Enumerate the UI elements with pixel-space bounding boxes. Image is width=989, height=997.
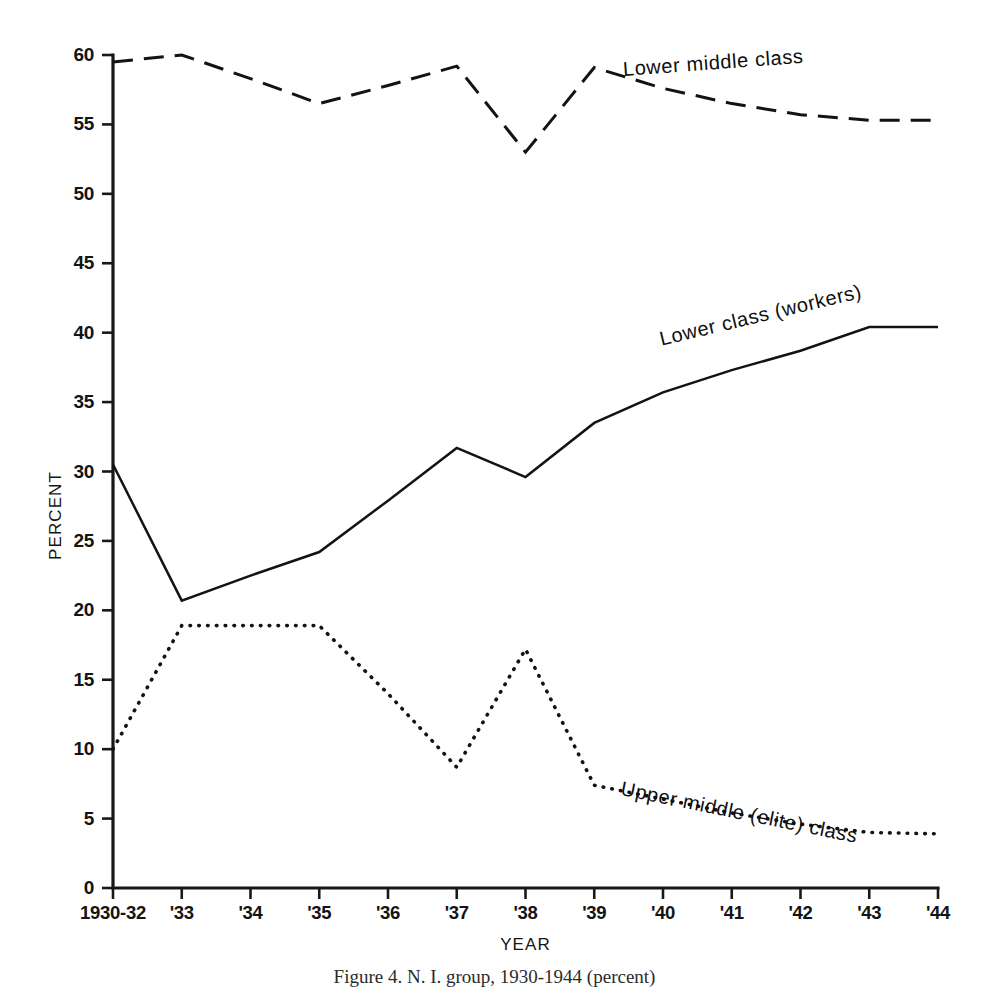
series-line-lower-middle-class — [113, 55, 938, 152]
x-tick-label: '42 — [788, 902, 812, 924]
y-tick-label: 0 — [40, 877, 94, 899]
figure-caption: Figure 4. N. I. group, 1930-1944 (percen… — [0, 966, 989, 988]
y-tick-label: 20 — [40, 599, 94, 621]
y-tick-label: 45 — [40, 252, 94, 274]
x-tick-label: '35 — [307, 902, 331, 924]
x-tick-label: '40 — [651, 902, 675, 924]
x-tick-marks — [113, 888, 938, 899]
series-line-lower-class-workers — [113, 327, 938, 601]
x-tick-label: '44 — [926, 902, 950, 924]
y-tick-label: 50 — [40, 183, 94, 205]
y-tick-label: 10 — [40, 738, 94, 760]
x-tick-label: '39 — [582, 902, 606, 924]
series-line-upper-middle-elite-class — [113, 626, 938, 834]
y-tick-label: 55 — [40, 113, 94, 135]
x-tick-label: '33 — [170, 902, 194, 924]
chart-axes — [102, 55, 938, 899]
x-tick-label: '36 — [376, 902, 400, 924]
x-tick-label: '37 — [445, 902, 469, 924]
y-tick-marks — [102, 55, 113, 888]
x-tick-label: '41 — [720, 902, 744, 924]
y-tick-label: 40 — [40, 322, 94, 344]
chart-series-group — [113, 55, 938, 834]
line-chart-plot — [0, 0, 989, 997]
x-axis-title: YEAR — [500, 935, 551, 955]
axis-lines — [113, 55, 938, 888]
y-tick-label: 60 — [40, 44, 94, 66]
y-tick-label: 15 — [40, 669, 94, 691]
y-tick-label: 5 — [40, 808, 94, 830]
figure-container: 051015202530354045505560 1930-32'33'34'3… — [0, 0, 989, 997]
y-axis-title: PERCENT — [46, 471, 66, 560]
x-tick-label: '34 — [238, 902, 262, 924]
x-tick-label: '43 — [857, 902, 881, 924]
x-tick-label: '38 — [513, 902, 537, 924]
y-tick-label: 35 — [40, 391, 94, 413]
x-tick-label: 1930-32 — [80, 902, 146, 924]
